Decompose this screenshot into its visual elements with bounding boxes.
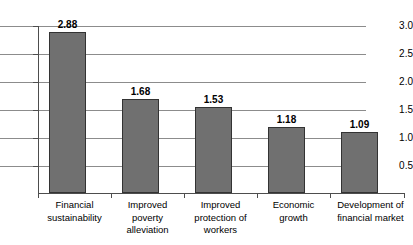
category-label-line: workers bbox=[184, 224, 257, 237]
category-label-improved-protection-of-workers: Improved protection of workers bbox=[184, 199, 257, 237]
x-tick-mark-2 bbox=[184, 193, 185, 198]
category-label-improved-poverty-alleviation: Improved poverty alleviation bbox=[111, 199, 184, 237]
y-tick-label-2-5: 2.5 bbox=[381, 49, 413, 59]
bar-economic-growth[interactable] bbox=[268, 127, 305, 193]
bar-value-development-of-financial-market: 1.09 bbox=[334, 119, 385, 130]
category-label-economic-growth: Economic growth bbox=[257, 199, 330, 224]
category-label-line: protection of bbox=[184, 212, 257, 225]
category-label-line: poverty bbox=[111, 212, 184, 225]
bar-value-improved-poverty-alleviation: 1.68 bbox=[115, 86, 166, 97]
bar-value-economic-growth: 1.18 bbox=[261, 114, 312, 125]
y-tick-mark-3-0 bbox=[33, 26, 38, 27]
x-tick-mark-0 bbox=[38, 193, 39, 198]
category-label-development-of-financial-market: Development of financial market bbox=[328, 199, 413, 224]
bar-development-of-financial-market[interactable] bbox=[341, 132, 378, 193]
y-tick-mark-1-0 bbox=[33, 138, 38, 139]
category-label-line: Improved bbox=[111, 199, 184, 212]
bar-value-improved-protection-of-workers: 1.53 bbox=[188, 94, 239, 105]
x-tick-mark-4 bbox=[330, 193, 331, 198]
y-axis-line bbox=[38, 26, 39, 194]
bar-financial-sustainability[interactable] bbox=[49, 32, 86, 193]
bar-value-financial-sustainability: 2.88 bbox=[42, 19, 93, 30]
y-tick-label-1-0: 1.0 bbox=[381, 133, 413, 143]
x-tick-mark-5 bbox=[404, 193, 405, 198]
y-tick-mark-1-5 bbox=[33, 110, 38, 111]
y-tick-mark-2-5 bbox=[33, 54, 38, 55]
bar-chart: 3.0 2.5 2.0 1.5 1.0 0.5 2.88 1.68 1.53 1… bbox=[0, 0, 413, 245]
category-label-line: Development of bbox=[328, 199, 413, 212]
category-label-line: alleviation bbox=[111, 224, 184, 237]
category-label-line: sustainability bbox=[38, 212, 111, 225]
y-tick-mark-2-0 bbox=[33, 82, 38, 83]
x-axis-line bbox=[38, 193, 405, 194]
category-label-financial-sustainability: Financial sustainability bbox=[38, 199, 111, 224]
y-tick-label-3-0: 3.0 bbox=[381, 21, 413, 31]
category-label-line: financial market bbox=[328, 212, 413, 225]
category-label-line: Financial bbox=[38, 199, 111, 212]
category-label-line: growth bbox=[257, 212, 330, 225]
y-tick-mark-0-5 bbox=[33, 166, 38, 167]
category-label-line: Economic bbox=[257, 199, 330, 212]
bar-improved-protection-of-workers[interactable] bbox=[195, 107, 232, 193]
y-tick-label-0-5: 0.5 bbox=[381, 161, 413, 171]
y-tick-label-1-5: 1.5 bbox=[381, 105, 413, 115]
x-tick-mark-1 bbox=[111, 193, 112, 198]
x-tick-mark-3 bbox=[257, 193, 258, 198]
category-label-line: Improved bbox=[184, 199, 257, 212]
y-tick-label-2-0: 2.0 bbox=[381, 77, 413, 87]
bar-improved-poverty-alleviation[interactable] bbox=[122, 99, 159, 193]
